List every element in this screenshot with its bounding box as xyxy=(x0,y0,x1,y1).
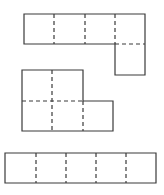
net-2 xyxy=(22,70,113,131)
net-3-outline xyxy=(5,153,156,183)
net-1 xyxy=(24,14,145,75)
cube-nets-diagram xyxy=(0,0,164,195)
net-3 xyxy=(5,153,156,183)
